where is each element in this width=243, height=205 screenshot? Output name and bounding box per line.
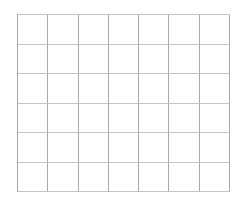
- grid-cell: [109, 133, 139, 163]
- grid-cell: [79, 104, 109, 134]
- grid-cell: [109, 45, 139, 75]
- grid-cell: [139, 74, 169, 104]
- grid-cell: [48, 163, 78, 193]
- grid-cell: [200, 45, 230, 75]
- grid-cell: [139, 133, 169, 163]
- grid-cell: [200, 15, 230, 45]
- grid-cell: [169, 133, 199, 163]
- grid-cell: [169, 163, 199, 193]
- grid-cell: [79, 163, 109, 193]
- grid-cell: [48, 104, 78, 134]
- grid-cell: [109, 104, 139, 134]
- grid-cell: [109, 163, 139, 193]
- grid-cell: [139, 45, 169, 75]
- grid-cell: [18, 45, 48, 75]
- grid-cell: [200, 133, 230, 163]
- grid-cell: [200, 74, 230, 104]
- grid-cell: [109, 74, 139, 104]
- grid-cell: [169, 104, 199, 134]
- grid-cell: [18, 163, 48, 193]
- grid-cell: [79, 133, 109, 163]
- grid-cell: [200, 104, 230, 134]
- grid-cell: [139, 163, 169, 193]
- grid-cell: [48, 15, 78, 45]
- blank-grid: [17, 14, 230, 192]
- grid-cell: [169, 15, 199, 45]
- grid-cell: [200, 163, 230, 193]
- grid-cell: [18, 133, 48, 163]
- grid-cell: [79, 15, 109, 45]
- grid-cell: [169, 74, 199, 104]
- grid-cell: [139, 104, 169, 134]
- grid-cell: [48, 45, 78, 75]
- page-canvas: [0, 0, 243, 205]
- grid-cell: [139, 15, 169, 45]
- grid-cell: [18, 74, 48, 104]
- grid-cell: [79, 74, 109, 104]
- grid-cell: [48, 133, 78, 163]
- grid-cell: [18, 104, 48, 134]
- grid-cell: [18, 15, 48, 45]
- grid-cell: [169, 45, 199, 75]
- grid-cell: [48, 74, 78, 104]
- grid-cell: [109, 15, 139, 45]
- grid-cell: [79, 45, 109, 75]
